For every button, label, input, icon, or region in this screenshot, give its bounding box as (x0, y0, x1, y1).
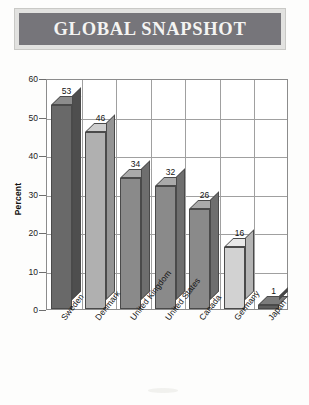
bar-value-label: 53 (47, 86, 87, 96)
gridline-vertical (151, 80, 152, 309)
y-axis-tick-label: 20 (12, 228, 38, 238)
title-banner: GLOBAL SNAPSHOT (14, 8, 286, 50)
scanned-page: GLOBAL SNAPSHOT Percent 0102030405060 53… (0, 0, 309, 405)
y-axis-tick-label: 10 (12, 267, 38, 277)
bar-chart: Percent 0102030405060 5346343226161 Swed… (0, 66, 309, 396)
bar-germany[interactable] (224, 238, 245, 309)
scan-artifact (148, 388, 178, 393)
bar-side-face (141, 160, 150, 300)
y-axis-tick-mark (39, 233, 46, 234)
bar-side-face (106, 114, 115, 300)
bar-front-face (51, 105, 72, 309)
y-axis-tick-mark (39, 272, 46, 273)
bar-value-label: 26 (185, 190, 225, 200)
y-axis-tick-mark (39, 310, 46, 311)
bar-value-label: 16 (220, 228, 260, 238)
bar-denmark[interactable] (85, 123, 106, 309)
bar-side-face (210, 191, 219, 300)
bar-front-face (224, 247, 245, 309)
y-axis-tick-label: 40 (12, 151, 38, 161)
y-axis-tick-mark (39, 156, 46, 157)
bar-united-kingdom[interactable] (120, 169, 141, 309)
bar-value-label: 34 (116, 159, 156, 169)
bar-front-face (85, 132, 106, 309)
gridline-horizontal (47, 157, 287, 158)
y-axis-tick-mark (39, 79, 46, 80)
bar-value-label: 32 (151, 167, 191, 177)
bar-front-face (120, 178, 141, 309)
y-axis-tick-label: 60 (12, 74, 38, 84)
gridline-vertical (254, 80, 255, 309)
title-banner-inner: GLOBAL SNAPSHOT (19, 13, 281, 45)
bar-value-label: 46 (81, 113, 121, 123)
y-axis-tick-label: 50 (12, 113, 38, 123)
bar-sweden[interactable] (51, 96, 72, 309)
y-axis-tick-mark (39, 118, 46, 119)
y-axis-tick-label: 30 (12, 190, 38, 200)
y-axis-tick-mark (39, 195, 46, 196)
y-axis-tick-label: 0 (12, 305, 38, 315)
bar-side-face (176, 168, 185, 300)
page-title: GLOBAL SNAPSHOT (54, 19, 247, 40)
